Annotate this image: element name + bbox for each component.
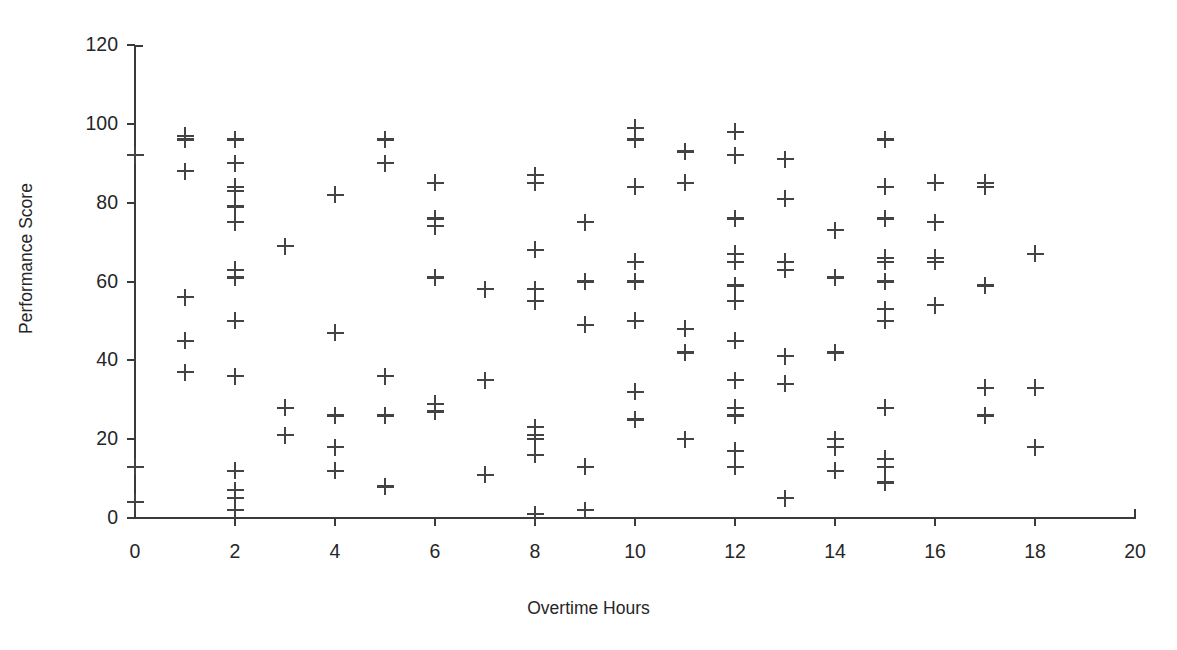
x-axis-tick-label: 14 (805, 542, 865, 562)
y-axis-tick-label: 20 (58, 429, 118, 449)
x-axis-tick (334, 518, 336, 526)
y-axis-tick (127, 438, 135, 440)
x-axis-tick-label: 20 (1105, 542, 1165, 562)
y-axis-tick-label: 80 (58, 193, 118, 213)
y-axis-tick (127, 281, 135, 283)
y-axis-tick-label: 40 (58, 350, 118, 370)
y-axis-tick-label: 0 (58, 508, 118, 528)
x-axis-tick (834, 518, 836, 526)
x-axis-tick (934, 518, 936, 526)
y-axis-tick (127, 359, 135, 361)
x-axis-tick-label: 12 (705, 542, 765, 562)
x-axis-tick (1034, 518, 1036, 526)
y-axis-tick-label: 120 (58, 35, 118, 55)
y-axis-tick (127, 202, 135, 204)
y-axis-title: Performance Score (16, 129, 37, 389)
x-axis-tick (234, 518, 236, 526)
y-axis-tick-label: 60 (58, 272, 118, 292)
x-axis-tick-label: 2 (205, 542, 265, 562)
x-axis-tick (734, 518, 736, 526)
y-axis-tick (127, 44, 135, 46)
x-axis-tick (434, 518, 436, 526)
x-axis-tick (534, 518, 536, 526)
x-axis-tick-label: 8 (505, 542, 565, 562)
x-axis-tick-label: 16 (905, 542, 965, 562)
x-axis-tick (634, 518, 636, 526)
scatter-chart: 020406080100120 02468101214161820 Perfor… (0, 0, 1177, 650)
x-axis-title: Overtime Hours (0, 598, 1177, 619)
plot-area (135, 45, 1135, 518)
x-axis-tick-label: 4 (305, 542, 365, 562)
x-axis-tick-label: 10 (605, 542, 665, 562)
y-axis-tick-label: 100 (58, 114, 118, 134)
x-axis-tick-label: 18 (1005, 542, 1065, 562)
x-axis-tick-label: 0 (105, 542, 165, 562)
y-axis-tick (127, 123, 135, 125)
x-axis-tick-label: 6 (405, 542, 465, 562)
y-axis-tick (127, 517, 135, 519)
